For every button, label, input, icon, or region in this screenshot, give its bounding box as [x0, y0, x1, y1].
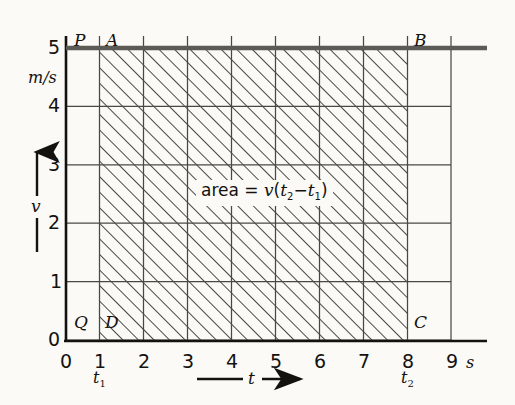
- y-tick-5: 5: [48, 38, 60, 57]
- area-formula-minus: −: [293, 180, 307, 200]
- x-tick-0: 0: [60, 352, 72, 371]
- t2-marker-label: t2: [401, 370, 414, 389]
- x-tick-9: 9: [446, 352, 458, 371]
- y-tick-4: 4: [48, 96, 60, 115]
- area-formula-close-paren: ): [321, 180, 328, 200]
- y-axis-unit: m/s: [28, 70, 57, 86]
- velocity-time-graph-figure: 5 4 3 2 1 0 m/s v 0 1 2 3 4 5 6 7 8 9 s …: [0, 0, 515, 405]
- label-C: C: [414, 314, 427, 331]
- x-tick-5: 5: [270, 352, 282, 371]
- label-D: D: [105, 314, 119, 331]
- x-tick-6: 6: [314, 352, 326, 371]
- x-axis-unit: s: [466, 355, 474, 371]
- label-A: A: [106, 32, 118, 49]
- t2-subscript: 2: [407, 378, 413, 389]
- t1-marker-label: t1: [93, 370, 106, 389]
- t1-subscript: 1: [99, 378, 105, 389]
- x-axis-variable: t: [248, 370, 255, 387]
- label-B: B: [414, 32, 427, 49]
- area-formula-lead: area =: [201, 180, 264, 200]
- area-formula-v: v: [264, 180, 274, 200]
- label-Q: Q: [74, 314, 88, 331]
- x-tick-7: 7: [358, 352, 370, 371]
- area-formula-t1: t: [308, 180, 315, 200]
- y-tick-3: 3: [48, 155, 60, 174]
- y-tick-1: 1: [50, 272, 62, 291]
- y-tick-0: 0: [48, 330, 60, 349]
- x-tick-3: 3: [182, 352, 194, 371]
- y-tick-2: 2: [48, 213, 60, 232]
- area-formula-annotation: area = v(t2−t1): [196, 180, 333, 206]
- x-tick-4: 4: [226, 352, 238, 371]
- label-P: P: [74, 32, 85, 49]
- y-axis-variable: v: [31, 198, 41, 215]
- x-tick-2: 2: [138, 352, 150, 371]
